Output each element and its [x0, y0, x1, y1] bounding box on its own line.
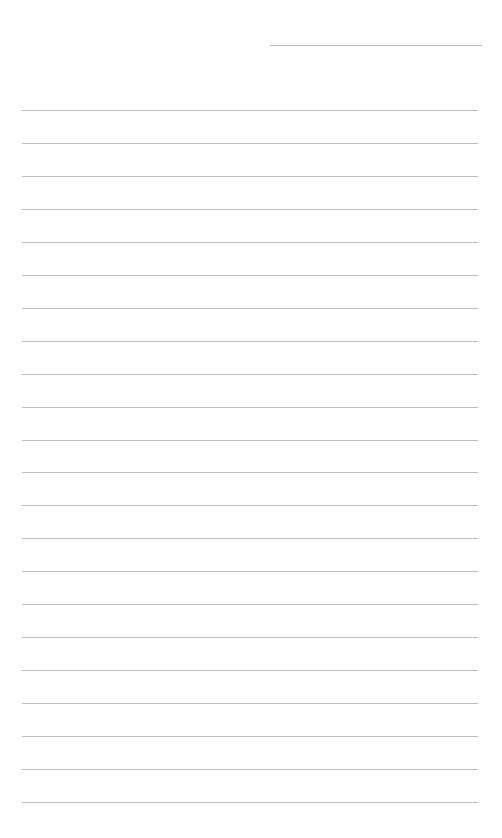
ruled-line	[22, 538, 478, 539]
lined-paper-page	[0, 0, 502, 838]
ruled-line	[22, 275, 478, 276]
ruled-line	[22, 604, 478, 605]
ruled-line	[22, 472, 478, 473]
ruled-line	[22, 703, 478, 704]
ruled-line	[22, 407, 478, 408]
ruled-line	[22, 440, 478, 441]
ruled-line	[22, 374, 478, 375]
ruled-line	[22, 308, 478, 309]
ruled-line	[22, 242, 478, 243]
ruled-line	[22, 176, 478, 177]
ruled-line	[22, 736, 478, 737]
ruled-line	[22, 209, 478, 210]
ruled-lines	[0, 0, 502, 838]
ruled-line	[22, 341, 478, 342]
ruled-line	[22, 670, 478, 671]
ruled-line	[22, 505, 478, 506]
ruled-line	[22, 110, 478, 111]
ruled-line	[22, 571, 478, 572]
ruled-line	[22, 637, 478, 638]
ruled-line	[22, 143, 478, 144]
ruled-line	[22, 802, 478, 803]
ruled-line	[22, 769, 478, 770]
